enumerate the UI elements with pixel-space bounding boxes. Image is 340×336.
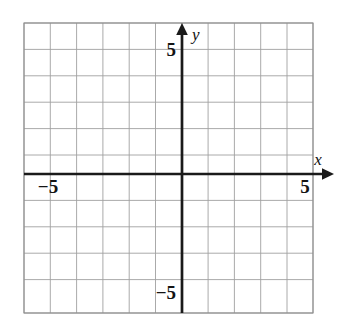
- coordinate-plane-figure: x y 5 −5 −5 5: [0, 0, 340, 336]
- x-tick-label-positive: 5: [300, 176, 310, 197]
- x-tick-label-negative: −5: [38, 176, 58, 197]
- y-tick-label-negative: −5: [156, 282, 176, 303]
- y-tick-label-positive: 5: [167, 39, 177, 60]
- x-axis-arrowhead-icon: [322, 168, 334, 180]
- y-axis-name-label: y: [190, 25, 200, 44]
- x-axis-name-label: x: [313, 150, 322, 169]
- grid-background: [24, 23, 313, 313]
- coordinate-plane-svg: x y 5 −5 −5 5: [0, 0, 340, 336]
